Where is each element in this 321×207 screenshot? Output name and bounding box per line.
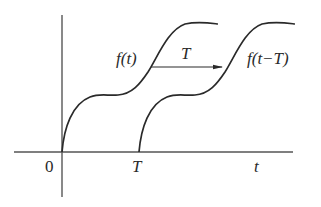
label-tick-T: T: [132, 157, 143, 176]
curve-f-t-minus-T: [139, 22, 295, 152]
label-f-t: f(t): [116, 49, 137, 68]
label-f-t-minus-T: f(t−T): [247, 49, 289, 68]
curve-f-t: [62, 22, 218, 152]
diagram-svg: f(t) T f(t−T) 0 T t: [0, 0, 321, 207]
label-origin: 0: [45, 157, 54, 176]
label-axis-t: t: [254, 157, 260, 176]
time-shift-diagram: f(t) T f(t−T) 0 T t: [0, 0, 321, 207]
label-shift-T: T: [181, 44, 192, 63]
